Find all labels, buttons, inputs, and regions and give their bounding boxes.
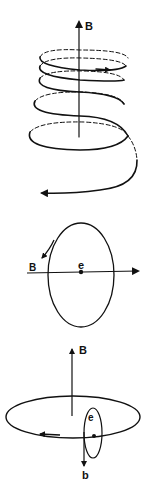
diagram-svg [0, 0, 152, 494]
orbit-ellipse [48, 223, 114, 327]
orbit-side-panel [27, 223, 138, 327]
helix-direction-arrow [96, 69, 110, 70]
helix-back-dashed [30, 50, 137, 160]
helix-panel [29, 22, 137, 193]
induced-field-label: b [82, 470, 89, 481]
helix-front-solid [29, 57, 137, 193]
b-field-label: B [85, 21, 93, 32]
diagram-canvas: B B e B e b [0, 0, 152, 494]
orbit-induced-panel [6, 349, 140, 466]
electron-label-2: e [88, 413, 94, 423]
b-field-label-2: B [29, 263, 36, 273]
electron-dot-2 [92, 434, 96, 438]
large-orbit-direction-arrow [40, 434, 60, 435]
electron-label: e [78, 260, 84, 271]
b-field-label-3: B [79, 345, 87, 356]
large-orbit-ellipse [6, 396, 140, 438]
